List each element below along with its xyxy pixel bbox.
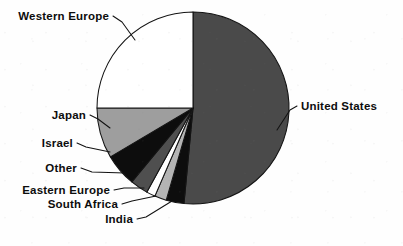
pie-label-western-europe: Western Europe [18,10,109,22]
leader-line-south-africa [122,196,156,204]
pie-label-other: Other [45,162,77,174]
pie-label-south-africa: South Africa [48,198,119,210]
leader-line-eastern-europe [114,188,144,190]
pie-label-eastern-europe: Eastern Europe [22,184,110,196]
pie-chart-svg: Western Europe Japan Israel Other Easter… [0,0,403,246]
pie-label-india: India [105,213,133,225]
pie-chart-figure: Western Europe Japan Israel Other Easter… [0,0,403,246]
leader-line-india [137,201,172,219]
pie-label-united-states: United States [301,100,377,112]
pie-slice-western-europe[interactable] [97,12,193,108]
pie-slices-group [97,12,289,204]
pie-label-israel: Israel [42,137,73,149]
pie-slice-united-states[interactable] [184,12,289,204]
pie-label-japan: Japan [52,109,86,121]
